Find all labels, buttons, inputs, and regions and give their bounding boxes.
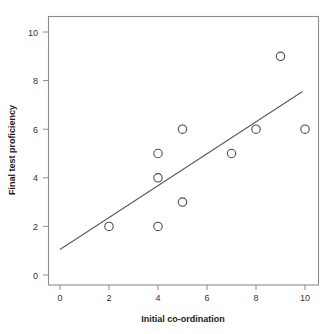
y-tick-label-2: 2	[33, 222, 38, 232]
x-tick-label-6: 6	[204, 293, 209, 303]
x-tick-label-10: 10	[300, 293, 310, 303]
x-tick-label-8: 8	[253, 293, 258, 303]
y-tick-label-4: 4	[33, 173, 38, 183]
x-tick-label-0: 0	[57, 293, 62, 303]
y-tick-label-6: 6	[33, 125, 38, 135]
x-axis-title: Initial co-ordination	[141, 314, 225, 324]
figure-background	[0, 0, 335, 334]
y-tick-label-10: 10	[28, 28, 38, 38]
x-tick-label-2: 2	[106, 293, 111, 303]
y-axis-title: Final test proficiency	[7, 105, 17, 195]
y-tick-label-0: 0	[33, 271, 38, 281]
x-tick-label-4: 4	[155, 293, 160, 303]
plot-canvas: 10 8 6 4 2 0 0 2 4 6 8 10 Initial co-ord…	[0, 0, 335, 334]
y-tick-label-8: 8	[33, 76, 38, 86]
scatter-plot-figure: 10 8 6 4 2 0 0 2 4 6 8 10 Initial co-ord…	[0, 0, 335, 334]
